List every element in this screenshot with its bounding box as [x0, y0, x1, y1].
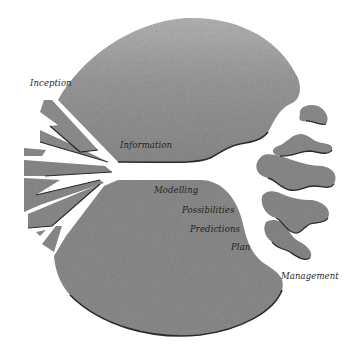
label-modelling: Modelling	[154, 185, 198, 195]
upper-region	[58, 18, 300, 162]
diagram: Inception Information Modelling Possibil…	[0, 0, 360, 357]
label-predictions: Predictions	[190, 224, 240, 234]
label-information: Information	[120, 140, 172, 150]
label-management: Management	[281, 271, 339, 281]
label-plan: Plan	[231, 242, 250, 252]
label-inception: Inception	[30, 78, 72, 88]
lower-region	[54, 180, 283, 336]
label-possibilities: Possibilities	[182, 205, 234, 215]
disc-illustration	[0, 0, 360, 357]
